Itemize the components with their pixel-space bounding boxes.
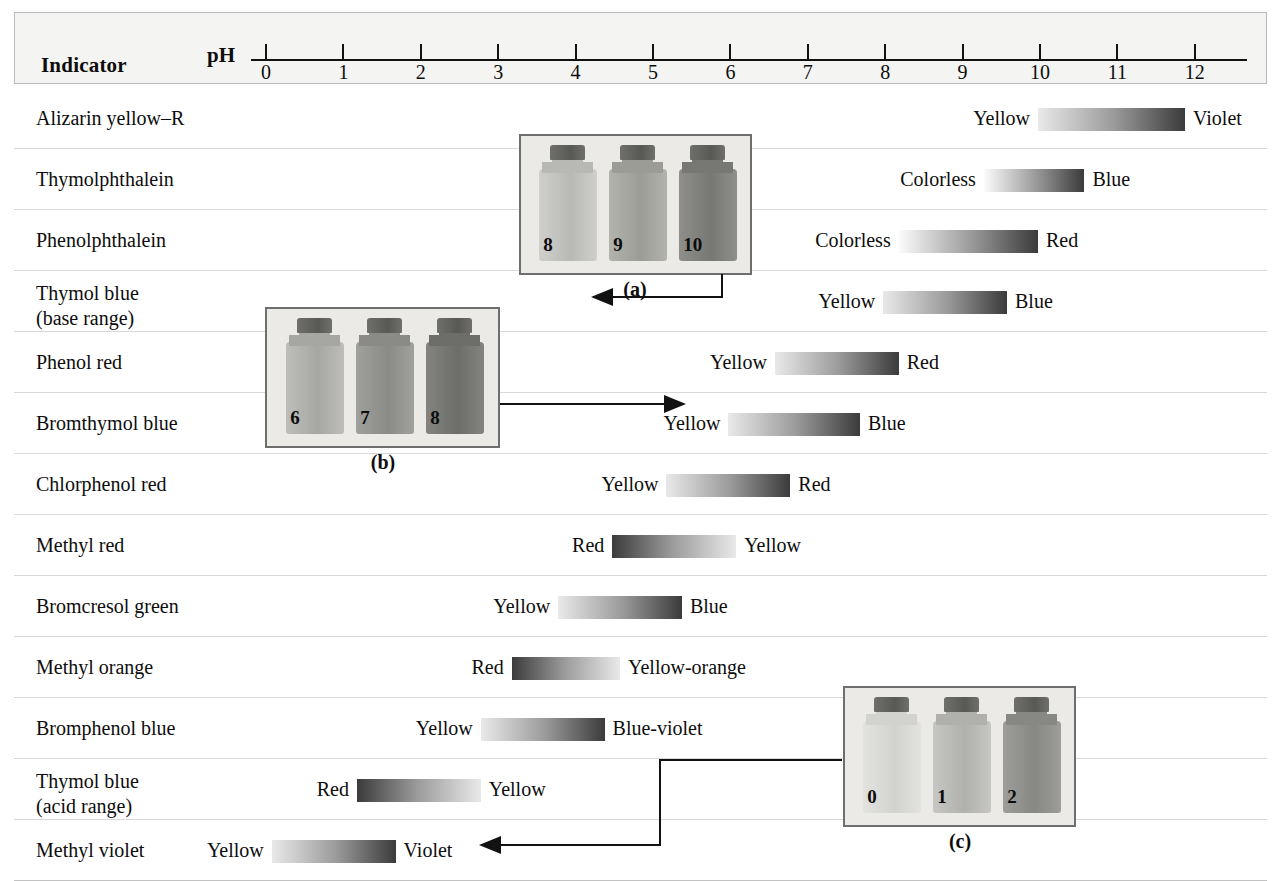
ph-indicator-chart: Indicator pH 0123456789101112 Alizarin y… bbox=[0, 0, 1281, 881]
arrow-photo-a bbox=[0, 0, 1281, 881]
